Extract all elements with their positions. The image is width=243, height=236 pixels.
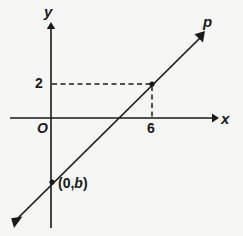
y-tick-label-2: 2	[35, 76, 43, 90]
x-axis-arrowhead-icon	[212, 114, 219, 123]
point-marker-0-b	[49, 179, 54, 184]
point-marker-6-2	[149, 81, 154, 86]
x-tick-label-6: 6	[147, 121, 155, 135]
y-axis	[47, 22, 55, 228]
coordinate-plane-figure: y x p 2 6 O (0,b)	[0, 0, 243, 236]
y-intercept-suffix: )	[83, 175, 88, 191]
x-axis-label: x	[221, 111, 229, 126]
y-axis-label: y	[44, 4, 52, 19]
y-intercept-prefix: (0,	[58, 175, 74, 191]
y-axis-arrowhead-icon	[47, 22, 55, 29]
line-p-lower-arrowhead-icon	[11, 217, 22, 229]
graph-canvas	[0, 0, 243, 236]
line-p-label: p	[203, 14, 212, 29]
origin-label: O	[37, 121, 48, 135]
y-intercept-variable: b	[74, 175, 83, 191]
y-intercept-label: (0,b)	[58, 176, 88, 190]
